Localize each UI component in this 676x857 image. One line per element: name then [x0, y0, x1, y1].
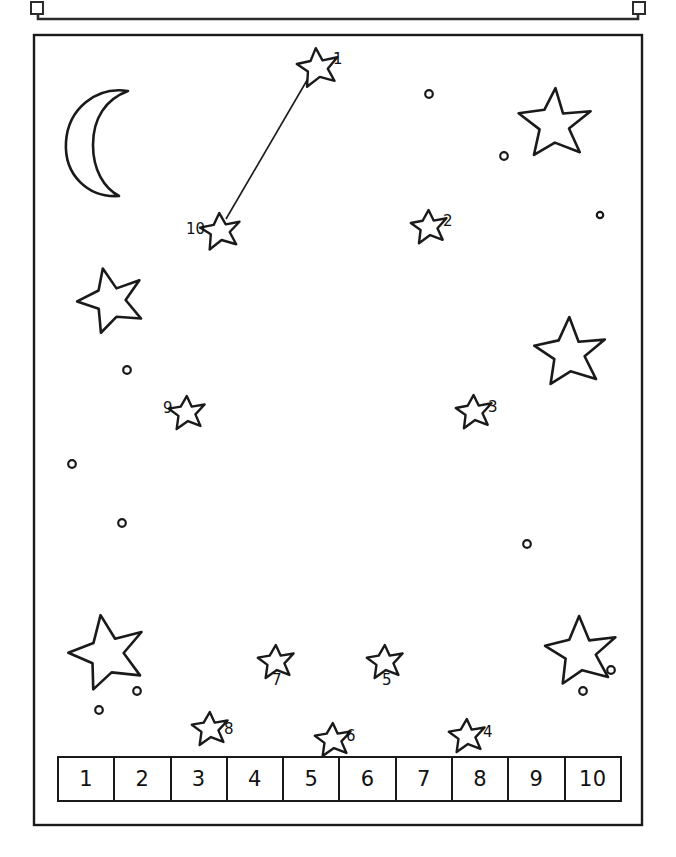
puzzle-star-label-4: 4 — [483, 725, 493, 740]
puzzle-star-label-1: 1 — [333, 52, 343, 67]
puzzle-star-label-9: 9 — [163, 401, 173, 416]
dot — [523, 540, 531, 548]
number-strip-cell[interactable]: 8 — [453, 758, 509, 800]
puzzle-star-label-3: 3 — [488, 400, 498, 415]
dot — [95, 706, 103, 714]
top-frame-corner-bracket-left — [31, 2, 43, 14]
number-strip-cell[interactable]: 9 — [509, 758, 565, 800]
dot — [579, 687, 587, 695]
puzzle-star-label-7: 7 — [272, 673, 282, 688]
dot — [500, 152, 508, 160]
dot — [133, 687, 141, 695]
number-strip-cell[interactable]: 5 — [284, 758, 340, 800]
dot — [68, 460, 76, 468]
dot — [118, 519, 126, 527]
dot — [607, 666, 615, 674]
number-strip-cell[interactable]: 10 — [566, 758, 620, 800]
number-strip: 1 2 3 4 5 6 7 8 9 10 — [57, 756, 622, 802]
top-frame-corner-bracket-right — [633, 2, 645, 14]
number-strip-cell[interactable]: 1 — [59, 758, 115, 800]
worksheet-page: 1 2 3 4 5 6 7 8 9 10 1 2 3 4 5 6 7 8 9 1… — [0, 0, 676, 857]
top-partial-frame — [38, 4, 638, 19]
puzzle-star-label-5: 5 — [382, 673, 392, 688]
puzzle-star-label-8: 8 — [224, 722, 234, 737]
number-strip-cell[interactable]: 2 — [115, 758, 171, 800]
worksheet-artwork — [0, 0, 676, 857]
number-strip-cell[interactable]: 6 — [340, 758, 396, 800]
number-strip-cell[interactable]: 3 — [172, 758, 228, 800]
puzzle-star-label-6: 6 — [346, 729, 356, 744]
dot — [123, 366, 131, 374]
worksheet-border — [34, 35, 642, 825]
dot — [425, 90, 433, 98]
dot — [597, 212, 603, 218]
number-strip-cell[interactable]: 7 — [397, 758, 453, 800]
puzzle-star-label-10: 10 — [186, 222, 205, 237]
puzzle-star-label-2: 2 — [443, 214, 453, 229]
number-strip-cell[interactable]: 4 — [228, 758, 284, 800]
